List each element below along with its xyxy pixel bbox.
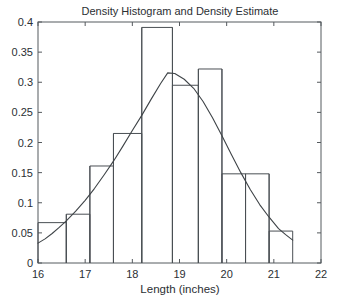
x-tick-label: 17 xyxy=(79,268,91,280)
density-estimate-curve xyxy=(38,73,293,243)
density-estimate-line xyxy=(38,73,293,243)
x-axis-tick-labels: 16171819202122 xyxy=(32,268,327,280)
x-axis-title: Length (inches) xyxy=(140,283,219,295)
x-tick-label: 18 xyxy=(126,268,138,280)
x-tick-label: 20 xyxy=(221,268,233,280)
chart-title: Density Histogram and Density Estimate xyxy=(82,5,279,17)
y-axis-tick-labels: 00.050.10.150.20.250.30.350.4 xyxy=(12,16,33,269)
x-tick-label: 22 xyxy=(315,268,327,280)
x-tick-label: 16 xyxy=(32,268,44,280)
y-tick-label: 0.3 xyxy=(18,76,33,88)
density-histogram-chart: Density Histogram and Density Estimate 0… xyxy=(0,0,342,302)
x-tick-label: 21 xyxy=(268,268,280,280)
y-tick-label: 0.25 xyxy=(12,106,33,118)
figure-container: Density Histogram and Density Estimate 0… xyxy=(0,0,342,302)
histogram-outline xyxy=(38,27,293,263)
y-tick-label: 0.05 xyxy=(12,227,33,239)
x-tick-label: 19 xyxy=(173,268,185,280)
y-tick-label: 0.1 xyxy=(18,197,33,209)
axis-ticks xyxy=(38,22,321,263)
y-tick-label: 0.4 xyxy=(18,16,33,28)
y-tick-label: 0.35 xyxy=(12,46,33,58)
plot-frame xyxy=(38,22,321,263)
y-tick-label: 0.2 xyxy=(18,137,33,149)
plot-border xyxy=(38,22,321,263)
histogram-bars xyxy=(38,27,293,263)
y-tick-label: 0.15 xyxy=(12,167,33,179)
chart-title-group: Density Histogram and Density Estimate xyxy=(82,5,279,17)
